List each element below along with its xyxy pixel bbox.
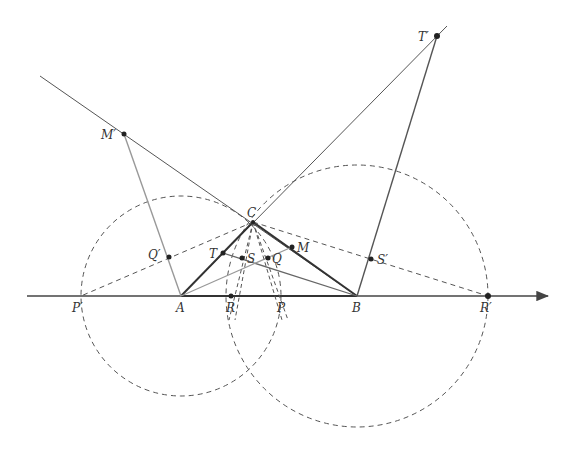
point-R — [229, 294, 234, 299]
label-Rp: R′ — [479, 301, 492, 315]
label-R: R — [225, 301, 235, 315]
label-T: T — [209, 247, 218, 261]
segment-A-Mp — [124, 134, 181, 296]
point-S — [240, 256, 245, 261]
label-P: P — [276, 301, 286, 315]
point-Rp — [485, 293, 491, 299]
point-Q — [266, 256, 271, 261]
label-M: M — [296, 241, 310, 255]
point-C — [251, 220, 255, 224]
label-A: A — [175, 301, 185, 315]
label-Q: Q — [272, 252, 282, 266]
point-Tp — [434, 33, 440, 39]
point-T — [221, 251, 226, 256]
label-S: S — [247, 252, 255, 266]
point-Mp — [122, 132, 127, 137]
segment-B-Tp — [357, 36, 437, 296]
label-Pp: P′ — [71, 301, 83, 315]
label-Sp: S′ — [377, 253, 388, 267]
label-Tp: T′ — [418, 30, 429, 44]
label-B: B — [351, 301, 361, 315]
point-Qp — [167, 255, 172, 260]
point-Sp — [369, 257, 374, 262]
point-M — [290, 245, 295, 250]
label-C: C — [247, 206, 256, 220]
dashed-C-Pp — [81, 222, 253, 296]
label-Qp: Q′ — [148, 248, 161, 262]
label-Mp: M′ — [100, 128, 116, 142]
geometry-diagram: A B C R P P′ R′ T S Q M M′ Q′ S′ T′ — [0, 0, 566, 452]
